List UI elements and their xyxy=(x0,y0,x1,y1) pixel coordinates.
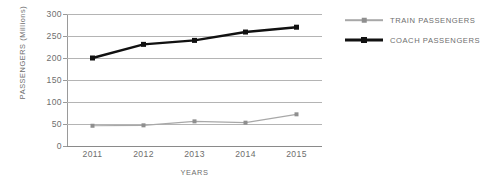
passenger-line-chart: PASSENGERS (Millions) 050100150200250300… xyxy=(0,0,486,186)
x-tick-label-2012: 2012 xyxy=(133,149,154,159)
legend-swatch-coach-icon xyxy=(345,35,383,45)
legend-swatch-train-icon xyxy=(345,15,383,25)
legend-item-train[interactable]: TRAIN PASSENGERS xyxy=(345,10,485,30)
data-point-coach-2015[interactable] xyxy=(294,25,299,30)
data-point-coach-2014[interactable] xyxy=(243,30,248,35)
plot-area xyxy=(67,14,322,146)
data-point-coach-2011[interactable] xyxy=(90,56,95,61)
legend-label-train: TRAIN PASSENGERS xyxy=(390,16,475,25)
y-tick-label-100: 100 xyxy=(46,97,62,107)
data-point-train-2011[interactable] xyxy=(91,124,95,128)
x-tick-label-2013: 2013 xyxy=(184,149,205,159)
data-point-coach-2012[interactable] xyxy=(141,42,146,47)
y-tick-mark-0 xyxy=(63,146,67,147)
legend-item-coach[interactable]: COACH PASSENGERS xyxy=(345,30,485,50)
data-point-train-2013[interactable] xyxy=(193,119,197,123)
y-tick-label-50: 50 xyxy=(52,119,62,129)
data-point-train-2015[interactable] xyxy=(295,112,299,116)
x-tick-label-2015: 2015 xyxy=(286,149,307,159)
chart-legend: TRAIN PASSENGERS COACH PASSENGERS xyxy=(345,10,485,50)
y-tick-label-250: 250 xyxy=(46,31,62,41)
x-tick-label-2014: 2014 xyxy=(235,149,256,159)
x-tick-label-2011: 2011 xyxy=(82,149,102,159)
gridline-0 xyxy=(67,146,322,147)
data-point-train-2014[interactable] xyxy=(244,121,248,125)
x-axis-tick-labels: 20112012201320142015 xyxy=(67,149,322,163)
y-tick-label-300: 300 xyxy=(46,9,62,19)
y-tick-label-200: 200 xyxy=(46,53,62,63)
y-axis-tick-labels: 050100150200250300 xyxy=(28,0,62,186)
y-tick-label-150: 150 xyxy=(46,75,62,85)
legend-label-coach: COACH PASSENGERS xyxy=(390,36,480,45)
series-layer xyxy=(67,14,322,146)
x-axis-title: YEARS xyxy=(67,168,322,177)
y-tick-label-0: 0 xyxy=(57,141,62,151)
data-point-train-2012[interactable] xyxy=(142,123,146,127)
y-axis-title: PASSENGERS (Millions) xyxy=(18,0,27,123)
data-point-coach-2013[interactable] xyxy=(192,38,197,43)
